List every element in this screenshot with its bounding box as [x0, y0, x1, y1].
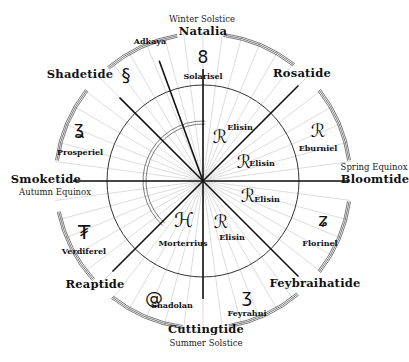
season-bloomtide: Bloomtide: [341, 174, 409, 186]
solarisel-glyph-icon: 8: [198, 49, 209, 66]
deity-adkaya: Adkaya: [134, 37, 166, 45]
summer-solstice-label: Summer Solstice: [169, 339, 242, 348]
morterrius-glyph-icon: ℋ: [174, 210, 194, 230]
deity-feyrahni: Feyrahni: [227, 309, 266, 317]
verdiferel-glyph-icon: ₮: [78, 222, 91, 242]
deity-elisin-2: Elisin: [249, 159, 275, 167]
deity-shadolan: Shadolan: [151, 301, 193, 309]
deity-verdiferel: Verdiferel: [62, 247, 106, 255]
winter-solstice-label: Winter Solstice: [169, 15, 235, 24]
season-rosatide: Rosatide: [273, 68, 331, 80]
autumn-equinox-label: Autumn Equinox: [19, 188, 91, 197]
elisin-glyph-icon-3: ℛ: [241, 187, 255, 205]
elisin-glyph-icon-4: ℛ: [214, 213, 228, 231]
season-reaptide: Reaptide: [65, 279, 124, 291]
shadetide-glyph-icon: §: [122, 66, 131, 84]
deity-elisin-1: Elisin: [227, 123, 253, 131]
season-shadetide: Shadetide: [47, 69, 113, 81]
deity-eburniel: Eburniel: [299, 144, 338, 152]
elisin-glyph-icon-1: ℛ: [213, 128, 227, 146]
season-cuttingtide: Cuttingtide: [168, 324, 244, 336]
spring-equinox-label: Spring Equinox: [341, 163, 408, 172]
eburniel-glyph-icon: ℛ: [311, 122, 325, 140]
florinel-glyph-icon: ʑ: [318, 211, 327, 229]
deity-elisin-3: Elisin: [254, 195, 280, 203]
deity-solarisel: Solarisel: [183, 72, 222, 80]
season-smoketide: Smoketide: [11, 174, 81, 186]
prosperiel-glyph-icon: ʓ: [74, 119, 84, 137]
deity-florinel: Florinel: [302, 239, 337, 247]
deity-morterrius: Morterrius: [159, 239, 208, 247]
season-natalia: Natalia: [179, 26, 227, 38]
deity-prosperiel: Prosperiel: [57, 148, 103, 156]
deity-elisin-4: Elisin: [219, 233, 245, 241]
season-feybraihatide: Feybraihatide: [270, 278, 361, 290]
feyrahni-glyph-icon: ʒ: [242, 287, 252, 305]
